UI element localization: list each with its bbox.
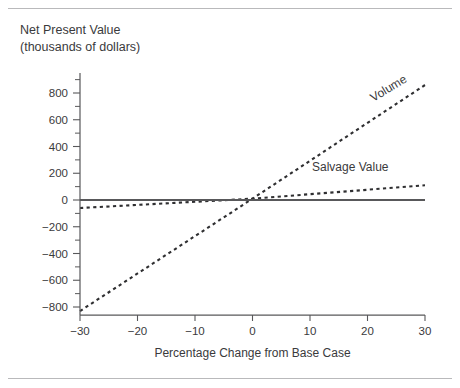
series-label-salvage-value: Salvage Value <box>312 160 389 174</box>
y-tick-label: −600 <box>42 274 68 286</box>
y-tick-label: 400 <box>49 141 68 153</box>
y-tick-label: 200 <box>49 167 68 179</box>
x-tick-label: −10 <box>185 325 205 337</box>
y-tick-label: 600 <box>49 114 68 126</box>
x-tick-label: −20 <box>128 325 148 337</box>
x-axis-title: Percentage Change from Base Case <box>154 346 350 360</box>
series-group <box>80 85 425 311</box>
x-tick-label: 10 <box>304 325 317 337</box>
tick-labels-group: −800−600−400−2000200400600800−30−20−1001… <box>42 87 431 337</box>
plot-area: −800−600−400−2000200400600800−30−20−1001… <box>0 0 460 388</box>
y-tick-label: −400 <box>42 248 68 260</box>
y-tick-label: −200 <box>42 221 68 233</box>
x-tick-label: 20 <box>361 325 374 337</box>
chart-page: Net Present Value (thousands of dollars)… <box>0 0 460 388</box>
chart-svg: −800−600−400−2000200400600800−30−20−1001… <box>0 0 460 388</box>
series-line-salvage-value <box>80 185 425 208</box>
y-tick-label: 800 <box>49 87 68 99</box>
y-tick-label: 0 <box>62 194 68 206</box>
series-annotations-group: VolumeSalvage Value <box>312 72 409 174</box>
series-label-volume: Volume <box>368 72 410 105</box>
y-tick-label: −800 <box>42 301 68 313</box>
x-tick-label: 0 <box>249 325 255 337</box>
x-tick-label: 30 <box>419 325 432 337</box>
x-tick-label: −30 <box>70 325 90 337</box>
